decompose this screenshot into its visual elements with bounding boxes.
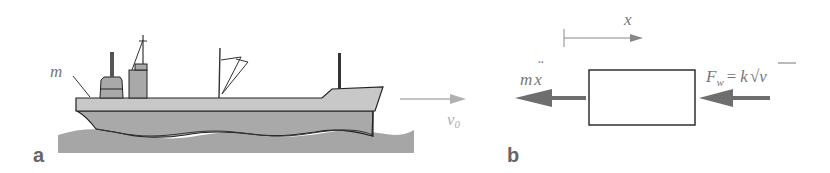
ship-stack bbox=[100, 77, 123, 98]
panel-label-b: b bbox=[507, 144, 519, 166]
drag-force-label: Fw=k√v bbox=[705, 67, 767, 88]
ship-bridge bbox=[129, 70, 147, 98]
panel-b: x mx ¨ Fw=k√v b bbox=[507, 10, 796, 166]
bow-mast bbox=[338, 53, 341, 89]
x-axis-label: x bbox=[623, 10, 632, 29]
mass-leader bbox=[73, 76, 90, 97]
mass-label: m bbox=[50, 62, 62, 81]
panel-a: m v0 a bbox=[33, 35, 466, 166]
double-dot-accent: ¨ bbox=[538, 57, 544, 76]
mass-block bbox=[589, 70, 695, 125]
panel-label-a: a bbox=[33, 144, 45, 166]
stack-pipe bbox=[110, 52, 114, 77]
velocity-label: v0 bbox=[447, 110, 461, 130]
mast bbox=[219, 48, 220, 98]
